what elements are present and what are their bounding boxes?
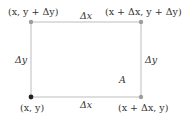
side-label-bottom: Δx [80, 100, 92, 110]
rectangle-outline [31, 22, 141, 97]
side-label-top: Δx [80, 11, 92, 21]
corner-dot-bottom-right [139, 95, 143, 99]
corner-dot-top-left [29, 20, 33, 24]
side-label-left: Δy [15, 55, 27, 65]
corner-dot-bottom-left [29, 95, 34, 100]
corner-label-top-left: (x, y + Δy) [8, 7, 58, 17]
corner-label-bottom-right: (x + Δx, y) [118, 103, 168, 113]
corner-label-top-right: (x + Δx, y + Δy) [105, 7, 182, 17]
corner-dot-top-right [139, 20, 143, 24]
side-label-right: Δy [145, 55, 157, 65]
corner-label-bottom-left: (x, y) [20, 103, 44, 113]
area-label: A [119, 75, 126, 85]
